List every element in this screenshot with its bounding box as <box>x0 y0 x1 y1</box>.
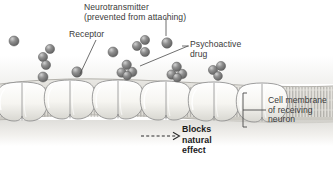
membrane-diagram-artwork <box>0 0 333 173</box>
label-cell-membrane: Cell membraneof receivingneuron <box>268 96 327 125</box>
label-neurotransmitter-line1: Neurotransmitter <box>84 2 149 12</box>
label-membrane-line1: Cell membrane <box>268 95 327 105</box>
label-membrane-line3: neuron <box>268 114 295 124</box>
label-membrane-line2: of receiving <box>268 105 313 115</box>
label-drug-line1: Psychoactive <box>190 39 241 49</box>
label-neurotransmitter: Neurotransmitter(prevented from attachin… <box>84 3 186 22</box>
label-drug-line2: drug <box>190 49 207 59</box>
label-receptor: Receptor <box>69 30 104 40</box>
label-blocks-line2: natural <box>182 135 212 145</box>
label-psychoactive-drug: Psychoactivedrug <box>190 40 241 59</box>
label-blocks-line3: effect <box>182 145 206 155</box>
label-blocks-natural-effect: Blocksnaturaleffect <box>182 124 212 156</box>
figure-canvas: Neurotransmitter(prevented from attachin… <box>0 0 333 173</box>
label-blocks-line1: Blocks <box>182 124 211 134</box>
label-neurotransmitter-line2: (prevented from attaching) <box>84 12 186 22</box>
